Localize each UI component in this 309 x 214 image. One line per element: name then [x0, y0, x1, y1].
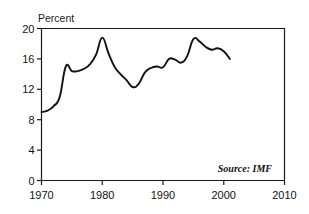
x-tick-label: 2010 [272, 189, 296, 201]
y-tick-label: 12 [22, 83, 34, 95]
y-tick-label: 8 [28, 114, 34, 126]
percent-line-chart: 048121620 19701980199020002010 Percent S… [0, 0, 309, 214]
chart-figure: 048121620 19701980199020002010 Percent S… [0, 0, 309, 214]
y-tick-label: 20 [22, 23, 34, 35]
x-tick-label: 2000 [212, 189, 236, 201]
plot-frame-border [42, 29, 285, 181]
y-tick-label: 16 [22, 53, 34, 65]
data-series-line [42, 38, 230, 112]
x-axis-tick-labels: 19701980199020002010 [29, 189, 296, 201]
y-axis-tick-labels: 048121620 [22, 23, 34, 187]
y-tick-label: 4 [28, 144, 34, 156]
y-tick-label: 0 [28, 175, 34, 187]
plot-frame [42, 29, 285, 181]
y-axis-tick-marks [37, 29, 42, 181]
y-axis-caption: Percent [38, 12, 74, 24]
x-tick-label: 1990 [151, 189, 175, 201]
x-axis-tick-marks [42, 181, 285, 186]
x-tick-label: 1980 [90, 189, 114, 201]
x-tick-label: 1970 [29, 189, 53, 201]
source-note: Source: IMF [218, 163, 273, 174]
